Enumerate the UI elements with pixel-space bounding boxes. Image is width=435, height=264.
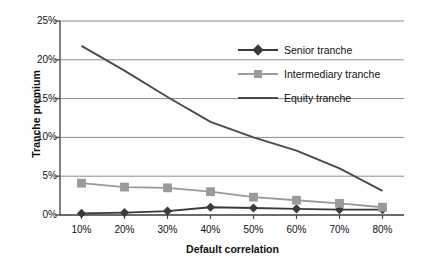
data-point-marker (292, 196, 301, 205)
data-point-marker (206, 187, 215, 196)
x-tick-label: 80% (361, 224, 405, 235)
legend-label-equity: Equity tranche (278, 92, 351, 104)
legend-item-equity-tranche: Equity tranche (238, 86, 408, 110)
x-tick-label: 50% (232, 224, 276, 235)
chart-container: 0%5%10%15%20%25% Tranche premium Default… (0, 0, 435, 264)
diamond-marker-icon (252, 44, 263, 55)
data-point-marker (120, 183, 129, 192)
x-tick-label: 60% (275, 224, 319, 235)
square-marker-icon (254, 70, 262, 78)
legend-key-senior (238, 43, 278, 57)
legend-key-intermediary (238, 67, 278, 81)
data-point-marker (206, 203, 215, 212)
data-point-marker (163, 183, 172, 192)
legend-line-equity (238, 97, 278, 99)
legend-item-intermediary-tranche: Intermediary tranche (238, 62, 408, 86)
data-point-marker (292, 204, 301, 213)
data-point-marker (335, 199, 344, 208)
data-point-marker (378, 203, 387, 212)
data-point-marker (120, 208, 129, 217)
chart-legend: Senior tranche Intermediary tranche Equi… (238, 38, 408, 110)
x-tick-label: 70% (318, 224, 362, 235)
data-point-marker (77, 179, 86, 188)
legend-label-senior: Senior tranche (278, 44, 352, 56)
x-tick-label: 30% (146, 224, 190, 235)
x-tick-label: 10% (60, 224, 104, 235)
legend-item-senior-tranche: Senior tranche (238, 38, 408, 62)
x-tick-label: 40% (189, 224, 233, 235)
data-point-marker (249, 193, 258, 202)
data-point-marker (77, 209, 86, 218)
x-tick-label: 20% (103, 224, 147, 235)
legend-key-equity (238, 91, 278, 105)
data-point-marker (249, 203, 258, 212)
legend-label-intermediary: Intermediary tranche (278, 68, 380, 80)
